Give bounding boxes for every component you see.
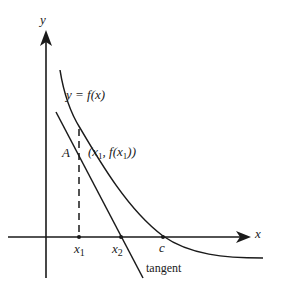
tangent-line — [56, 112, 143, 278]
curve-label: y = f(x) — [64, 87, 105, 102]
x1-point — [77, 235, 81, 239]
newton-method-diagram: y x y = f(x) A (x1, f(x1)) x1 x2 c tange… — [0, 0, 284, 300]
c-label: c — [159, 240, 165, 255]
x2-point — [119, 235, 123, 239]
x-axis-label: x — [254, 226, 261, 241]
c-point — [161, 235, 165, 239]
point-a-label: A — [61, 145, 70, 160]
point-coords-label: (x1, f(x1)) — [88, 144, 136, 161]
diagram-canvas: y x y = f(x) A (x1, f(x1)) x1 x2 c tange… — [0, 0, 284, 300]
tangent-label: tangent — [146, 261, 182, 275]
y-axis-label: y — [38, 12, 46, 27]
x1-label: x1 — [73, 241, 85, 258]
x2-label: x2 — [111, 241, 123, 258]
